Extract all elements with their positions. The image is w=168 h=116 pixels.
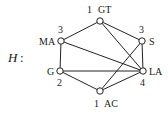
node-number-LA: 4 (140, 77, 145, 88)
node-number-GT: 1 (87, 4, 92, 15)
graph-svg: H : 1 GT 3 S LA 4 1 AC G 2 3 MA (0, 0, 168, 116)
edges (60, 21, 143, 91)
edge-MA-G (60, 41, 61, 71)
node-GT (97, 18, 103, 24)
node-MA (58, 38, 64, 44)
node-label-S: S (149, 36, 155, 47)
node-number-G: 2 (57, 77, 62, 88)
node-S (139, 38, 145, 44)
node-label-MA: MA (39, 36, 56, 47)
graph-diagram: H : 1 GT 3 S LA 4 1 AC G 2 3 MA (0, 0, 168, 116)
edge-G-AC (60, 71, 100, 91)
edge-S-AC (100, 41, 142, 91)
node-label-AC: AC (104, 98, 118, 109)
node-number-MA: 3 (58, 24, 63, 35)
node-LA (140, 68, 146, 74)
edge-GT-S (100, 21, 142, 41)
edge-GT-MA (61, 21, 100, 41)
node-number-AC: 1 (94, 98, 99, 109)
node-label-G: G (47, 66, 54, 77)
node-number-S: 3 (139, 24, 144, 35)
edge-S-LA (142, 41, 143, 71)
node-label-GT: GT (98, 4, 111, 15)
edge-AC-LA (100, 71, 143, 91)
node-label-LA: LA (149, 66, 163, 77)
graph-name: H (7, 50, 18, 65)
node-AC (97, 88, 103, 94)
graph-name-separator: : (20, 50, 24, 65)
node-G (57, 68, 63, 74)
